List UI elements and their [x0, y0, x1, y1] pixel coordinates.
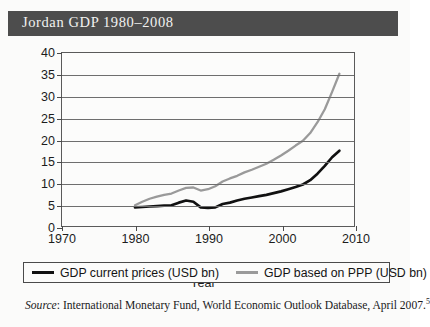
gridline: [62, 119, 354, 120]
series-line: [135, 151, 339, 208]
x-axis-tick-label: 1990: [195, 232, 223, 246]
y-axis-tick-label: 25: [41, 112, 55, 126]
y-axis-tick: [57, 75, 62, 76]
legend-swatch-ppp: [236, 271, 258, 274]
y-axis-tick: [57, 97, 62, 98]
y-axis-tick-label: 40: [41, 46, 55, 60]
gridline: [62, 97, 354, 98]
y-axis-tick: [57, 162, 62, 163]
plot-area: 051015202530354019701980199020002010: [61, 52, 355, 227]
y-axis-tick: [57, 141, 62, 142]
chart-legend: GDP current prices (USD bn) GDP based on…: [23, 262, 390, 283]
gridline: [62, 75, 354, 76]
gridline: [62, 162, 354, 163]
y-axis-tick: [57, 119, 62, 120]
legend-item-ppp: GDP based on PPP (USD bn): [236, 266, 427, 280]
source-text: : International Monetary Fund, World Eco…: [57, 299, 426, 312]
legend-label-ppp: GDP based on PPP (USD bn): [264, 266, 427, 280]
y-axis-tick: [57, 206, 62, 207]
gridline: [62, 184, 354, 185]
x-axis-tick: [136, 226, 137, 231]
x-axis-tick: [209, 226, 210, 231]
y-axis-tick-label: 20: [41, 134, 55, 148]
chart-container: 051015202530354019701980199020002010 Yea…: [8, 38, 398, 253]
y-axis-tick: [57, 184, 62, 185]
x-axis-tick: [62, 226, 63, 231]
source-footnote-marker: 5: [426, 297, 430, 306]
source-note: Source: International Monetary Fund, Wor…: [25, 297, 430, 312]
legend-label-current-prices: GDP current prices (USD bn): [60, 266, 219, 280]
x-axis-tick-label: 1970: [48, 232, 76, 246]
x-axis-tick: [356, 226, 357, 231]
y-axis-tick-label: 30: [41, 90, 55, 104]
x-axis-tick: [283, 226, 284, 231]
y-axis-tick: [57, 53, 62, 54]
gridline: [62, 141, 354, 142]
legend-item-current-prices: GDP current prices (USD bn): [32, 266, 219, 280]
series-lines: [62, 53, 354, 226]
page-title: Jordan GDP 1980–2008: [22, 14, 174, 31]
x-axis-tick-label: 2000: [269, 232, 297, 246]
source-label: Source: [25, 299, 57, 312]
legend-swatch-current-prices: [32, 271, 54, 274]
y-axis-tick-label: 10: [41, 177, 55, 191]
gridline: [62, 206, 354, 207]
x-axis-tick-label: 1980: [122, 232, 150, 246]
x-axis-tick-label: 2010: [342, 232, 370, 246]
y-axis-tick-label: 15: [41, 155, 55, 169]
y-axis-tick-label: 35: [41, 68, 55, 82]
y-axis-tick-label: 5: [48, 199, 55, 213]
series-line: [135, 74, 339, 205]
chart-title-banner: Jordan GDP 1980–2008: [8, 11, 398, 36]
